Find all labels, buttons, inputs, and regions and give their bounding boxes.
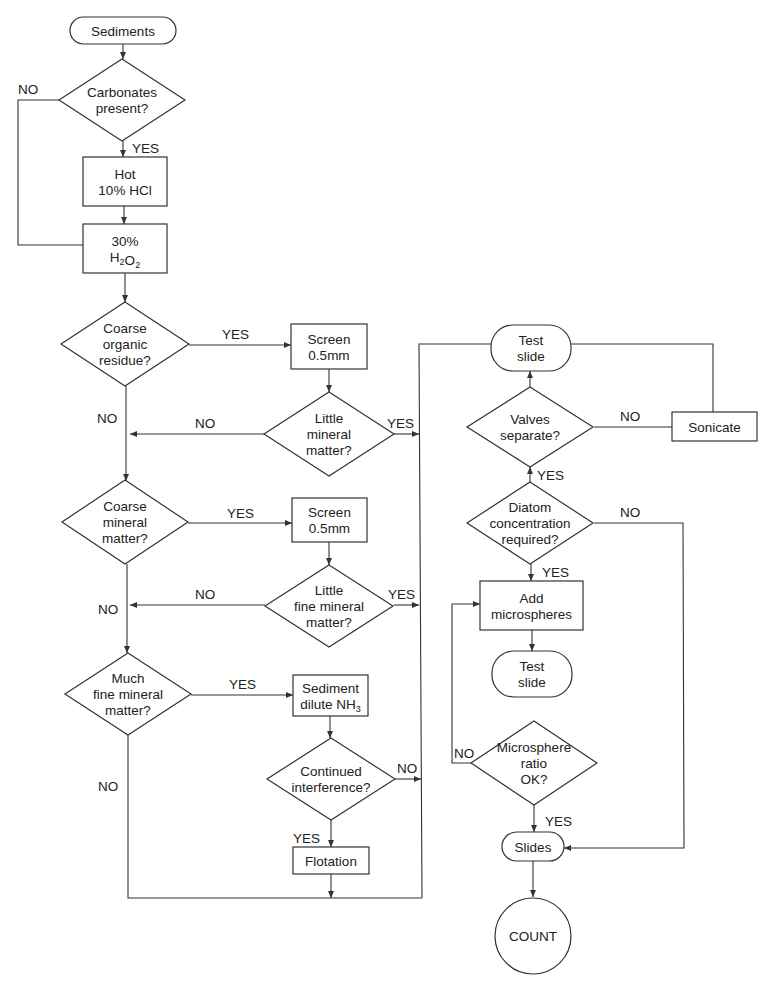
node-microsphere-ratio: MicrosphereratioOK? xyxy=(471,721,597,805)
nodes-layer: SedimentsCarbonatespresent?Hot10% HCl30%… xyxy=(59,17,757,974)
decision-diamond xyxy=(467,387,593,467)
edge-carbonates-to-h2o2 xyxy=(18,100,83,245)
edge-label-yes: YES xyxy=(229,677,256,692)
edge-label-yes: YES xyxy=(542,565,569,580)
node-label: Coarseorganicresidue? xyxy=(99,321,151,368)
node-h2o2: 30%H2O2 xyxy=(83,224,167,273)
decision-diamond xyxy=(267,738,395,820)
edge-label-no: NO xyxy=(620,505,640,520)
edge-label-yes: YES xyxy=(537,468,564,483)
node-coarse-mineral: Coarsemineralmatter? xyxy=(62,480,188,564)
node-diatom-concentration: Diatomconcentrationrequired? xyxy=(467,482,593,564)
node-test-slide-2: Testslide xyxy=(492,651,572,697)
edge-label-no: NO xyxy=(97,411,117,426)
node-label: Sediments xyxy=(91,24,155,39)
node-label: Carbonatespresent? xyxy=(87,85,157,116)
node-label: Flotation xyxy=(305,854,357,869)
node-screen-1: Screen0.5mm xyxy=(291,324,367,369)
node-label: Continuedinterference? xyxy=(292,764,371,795)
node-little-fine-mineral: Littlefine mineralmatter? xyxy=(265,565,393,647)
edge-label-no: NO xyxy=(195,416,215,431)
node-label: Testslide xyxy=(518,659,546,690)
node-label: Screen0.5mm xyxy=(308,332,351,363)
node-count: COUNT xyxy=(495,898,571,974)
node-add-microspheres: Addmicrospheres xyxy=(480,581,583,630)
edge-label-yes: YES xyxy=(387,416,414,431)
node-screen-2: Screen0.5mm xyxy=(292,498,367,542)
node-flotation: Flotation xyxy=(293,847,369,874)
node-carbonates: Carbonatespresent? xyxy=(59,59,185,141)
node-label: Sedimentdilute NH3 xyxy=(300,681,361,714)
terminal-shape xyxy=(492,651,572,697)
edge-label-no: NO xyxy=(195,587,215,602)
node-continued-interference: Continuedinterference? xyxy=(267,738,395,820)
edge-diatom-concentration-to-slides xyxy=(564,523,684,848)
edge-label-yes: YES xyxy=(545,814,572,829)
node-little-mineral: Littlemineralmatter? xyxy=(264,392,394,476)
node-hot-hcl: Hot10% HCl xyxy=(83,157,167,206)
terminal-shape xyxy=(491,325,571,371)
node-test-slide-1: Testslide xyxy=(491,325,571,371)
node-valves-separate: Valvesseparate? xyxy=(467,387,593,467)
node-sediment-nh3: Sedimentdilute NH3 xyxy=(293,675,368,716)
node-much-fine-mineral: Muchfine mineralmatter? xyxy=(65,653,191,735)
edge-label-no: NO xyxy=(397,761,417,776)
process-box xyxy=(480,581,583,630)
node-label: Coarsemineralmatter? xyxy=(102,499,148,546)
node-coarse-organic: Coarseorganicresidue? xyxy=(61,302,189,386)
edge-label-yes: YES xyxy=(222,327,249,342)
process-box xyxy=(83,157,167,206)
node-label: Testslide xyxy=(517,333,545,364)
edge-much-fine-mineral-to-bottom-line xyxy=(128,735,422,898)
edge-label-no: NO xyxy=(98,602,118,617)
edge-label-no: NO xyxy=(18,82,38,97)
edge-label-no: NO xyxy=(454,746,474,761)
node-sonicate: Sonicate xyxy=(672,412,757,441)
node-sediments: Sediments xyxy=(70,17,176,44)
edge-sonicate-to-test-slide-1 xyxy=(571,344,713,412)
edge-microsphere-ratio-to-add-microspheres xyxy=(452,604,480,763)
edge-label-yes: YES xyxy=(388,587,415,602)
edge-label-yes: YES xyxy=(293,831,320,846)
decision-diamond xyxy=(59,59,185,141)
edge-label-no: NO xyxy=(620,409,640,424)
node-label: Slides xyxy=(515,840,552,855)
edge-label-no: NO xyxy=(98,779,118,794)
node-label: COUNT xyxy=(509,929,557,944)
node-slides: Slides xyxy=(502,832,564,861)
node-label: Sonicate xyxy=(688,420,741,435)
edge-label-yes: YES xyxy=(227,506,254,521)
flowchart-canvas: SedimentsCarbonatespresent?Hot10% HCl30%… xyxy=(0,0,777,1003)
edge-label-yes: YES xyxy=(132,141,159,156)
node-label: Screen0.5mm xyxy=(308,505,351,536)
